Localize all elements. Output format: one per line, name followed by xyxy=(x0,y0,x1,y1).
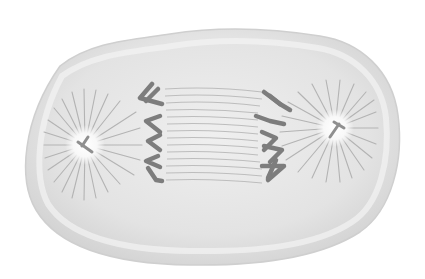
cell-illustration xyxy=(0,0,425,279)
anaphase-diagram: Illustration of a cell during anaphase: … xyxy=(0,0,425,279)
left-centrosome xyxy=(65,125,105,165)
